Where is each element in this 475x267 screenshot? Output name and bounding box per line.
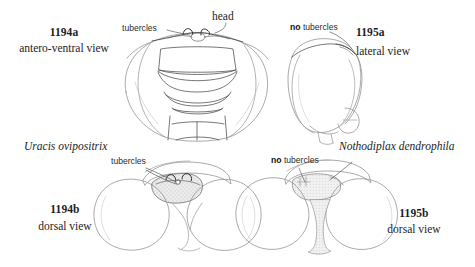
species-label-right: Nothodiplax dendrophila	[339, 140, 455, 152]
callout-1194b-tubercles: tubercles	[111, 157, 146, 166]
callout-negation: no	[271, 155, 282, 165]
head-label: head	[212, 10, 234, 22]
figure-plate: head tubercles no tubercles tubercles no…	[0, 0, 475, 267]
panel-label-1194b: 1194b dorsal view	[10, 203, 120, 232]
callout-1195a-no-tubercles: no tubercles	[290, 23, 338, 32]
drawing-1194a-antero-ventral	[125, 29, 268, 142]
figure-number-1195b: 1195b	[368, 207, 460, 219]
panel-label-1194a: 1194a antero-ventral view	[8, 26, 120, 54]
figure-number-1194a: 1194a	[8, 26, 120, 38]
callout-negation: no	[290, 22, 301, 32]
callout-text: tubercles	[111, 156, 146, 166]
callout-1195b-no-tubercles: no tubercles	[271, 156, 319, 165]
callout-1194a-tubercles: tubercles	[122, 24, 157, 33]
figure-number-1195a: 1195a	[356, 26, 410, 38]
drawing-1195a-lateral	[288, 39, 362, 145]
figure-number-1194b: 1194b	[10, 203, 120, 215]
callout-text: tubercles	[301, 22, 338, 32]
leader-head	[215, 23, 226, 33]
callout-text: tubercles	[122, 23, 157, 33]
panel-label-1195b: 1195b dorsal view	[368, 207, 460, 235]
species-label-left: Uracis ovipositrix	[24, 140, 107, 152]
figure-view-1195b: dorsal view	[368, 223, 460, 235]
figure-view-1195a: lateral view	[356, 45, 410, 57]
callout-text: tubercles	[282, 155, 319, 165]
figure-view-1194a: antero-ventral view	[8, 42, 120, 54]
panel-label-1195a: 1195a lateral view	[356, 26, 410, 57]
figure-view-1194b: dorsal view	[10, 220, 120, 232]
